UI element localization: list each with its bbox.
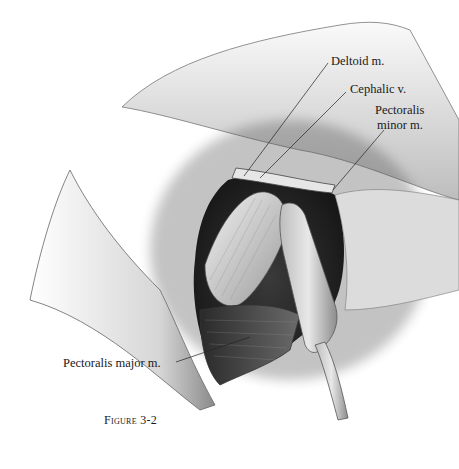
label-pectoralis-minor-line2: minor m. [377, 118, 423, 132]
label-cephalic: Cephalic v. [350, 82, 406, 96]
label-deltoid: Deltoid m. [331, 54, 384, 68]
figure-caption: Figure 3-2 [104, 413, 157, 428]
label-pectoralis-minor-line1: Pectoralis [375, 103, 424, 117]
surgical-illustration [0, 0, 459, 469]
label-pectoralis-major: Pectoralis major m. [63, 356, 161, 370]
right-skin-flap [335, 190, 459, 310]
figure-canvas: Deltoid m. Cephalic v. Pectoralis minor … [0, 0, 459, 469]
